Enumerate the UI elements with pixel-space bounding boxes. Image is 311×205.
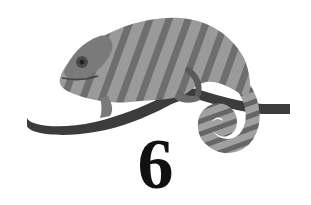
chapter-number: 6 (0, 128, 311, 200)
